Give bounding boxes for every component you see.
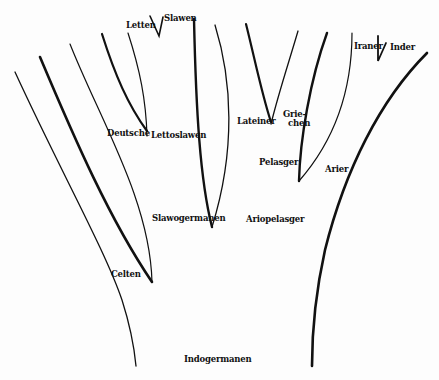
- label-pelasger: Pelasger: [259, 158, 298, 167]
- language-family-tree: Letten Slawen Deutsche Lettoslawen Slawo…: [0, 0, 439, 380]
- branch-ariopelasger: [212, 25, 229, 227]
- label-indogermanen: Indogermanen: [184, 355, 251, 364]
- label-deutsche: Deutsche: [107, 129, 150, 138]
- label-griechen-line2: chen: [283, 118, 310, 128]
- label-lettoslawen: Lettoslawen: [151, 131, 206, 140]
- branch-lettoslawen: [128, 33, 147, 136]
- branch-slawogermanen-inner: [194, 19, 212, 227]
- label-slawen: Slawen: [164, 14, 197, 23]
- label-lateiner: Lateiner: [237, 117, 276, 126]
- label-letten: Letten: [126, 21, 156, 30]
- label-slawogermanen: Slawogermanen: [152, 214, 225, 223]
- label-ariopelasger: Ariopelasger: [246, 215, 304, 224]
- branch-lateiner: [246, 24, 271, 122]
- branch-slawogermanen-outer: [70, 44, 152, 282]
- label-iraner: Iraner: [354, 42, 383, 51]
- label-arier: Arier: [325, 165, 348, 174]
- label-inder: Inder: [390, 43, 415, 52]
- branch-outer-left: [15, 72, 136, 366]
- branch-pelasger: [299, 33, 327, 181]
- branch-celten: [40, 57, 152, 282]
- tree-branches: [0, 0, 439, 380]
- branch-outer-right: [312, 53, 427, 366]
- label-celten: Celten: [111, 270, 141, 279]
- branch-deutsche: [102, 34, 147, 131]
- label-griechen: Grie- chen: [283, 110, 310, 128]
